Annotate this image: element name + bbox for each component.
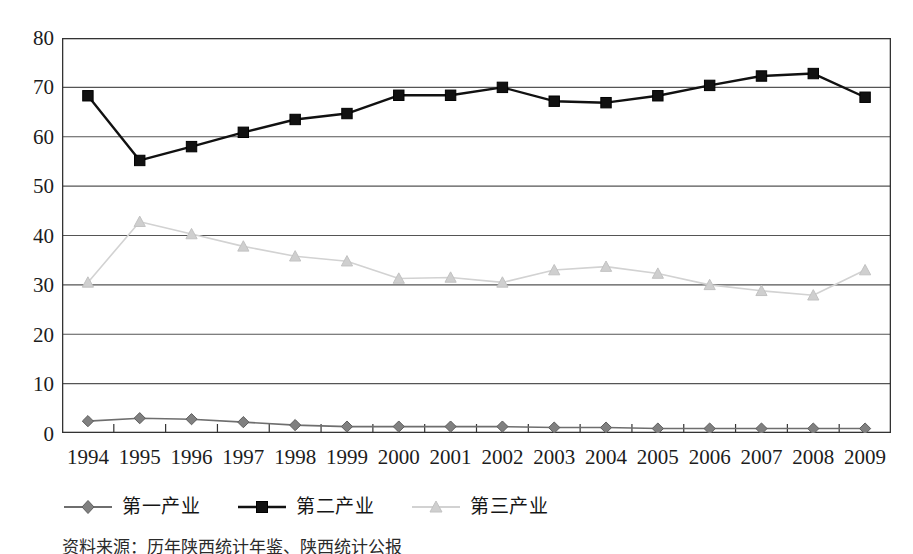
square-marker-icon (394, 90, 404, 100)
diamond-marker-icon (393, 421, 404, 432)
legend-label: 第二产业 (296, 497, 374, 517)
legend-item-tertiary-industry[interactable]: 第三产业 (410, 497, 548, 517)
x-tick-label: 1994 (62, 444, 114, 474)
square-marker-icon (860, 92, 870, 102)
square-marker-icon (83, 91, 93, 101)
diamond-marker-icon (62, 497, 114, 517)
series-line (88, 222, 865, 296)
x-tick-label: 1997 (217, 444, 269, 474)
square-marker-icon (135, 155, 145, 165)
diamond-marker-icon (238, 417, 249, 428)
diamond-marker-icon (186, 414, 197, 425)
y-tick-label: 30 (8, 275, 54, 296)
y-tick-label: 40 (8, 226, 54, 247)
y-axis: 80 70 60 50 40 30 20 10 0 (0, 0, 54, 554)
data-series (82, 216, 870, 300)
square-marker-icon (497, 82, 507, 92)
x-tick-label: 1999 (321, 444, 373, 474)
y-tick-label: 10 (8, 374, 54, 395)
diamond-marker-icon (600, 422, 611, 433)
legend-item-primary-industry[interactable]: 第一产业 (62, 497, 200, 517)
square-marker-icon (445, 90, 455, 100)
diamond-marker-icon (497, 421, 508, 432)
y-tick-label: 50 (8, 176, 54, 197)
diamond-marker-icon (290, 420, 301, 431)
x-tick-label: 2007 (736, 444, 788, 474)
square-marker-icon (704, 80, 714, 90)
gridlines (62, 87, 891, 383)
triangle-marker-icon (134, 216, 145, 226)
source-note: 资料来源：历年陕西统计年鉴、陕西统计公报 (62, 538, 402, 554)
square-marker-icon (808, 68, 818, 78)
x-tick-label: 2004 (580, 444, 632, 474)
y-tick-label: 0 (8, 424, 54, 445)
diamond-marker-icon (652, 423, 663, 433)
triangle-marker-icon (410, 497, 462, 517)
square-marker-icon (653, 91, 663, 101)
diamond-marker-icon (808, 423, 819, 433)
x-axis: 1994 1995 1996 1997 1998 1999 2000 2001 … (62, 444, 891, 474)
y-tick-label: 60 (8, 127, 54, 148)
legend-item-secondary-industry[interactable]: 第二产业 (236, 497, 374, 517)
x-tick-label: 2003 (528, 444, 580, 474)
diamond-marker-icon (82, 416, 93, 427)
y-tick-label: 80 (8, 28, 54, 49)
chart-legend: 第一产业 第二产业 第三产业 (62, 492, 548, 522)
legend-label: 第一产业 (122, 497, 200, 517)
plot-area (62, 38, 891, 433)
data-series-layer (82, 68, 870, 433)
square-marker-icon (601, 97, 611, 107)
y-tick-label: 70 (8, 77, 54, 98)
series-line (88, 418, 865, 428)
square-marker-icon (342, 108, 352, 118)
diamond-marker-icon (756, 423, 767, 433)
diamond-marker-icon (445, 421, 456, 432)
diamond-marker-icon (704, 423, 715, 433)
square-marker-icon (756, 71, 766, 81)
x-tick-label: 2009 (839, 444, 891, 474)
data-series (83, 68, 871, 165)
chart-plot-svg (62, 38, 891, 433)
x-tick-label: 1996 (166, 444, 218, 474)
square-marker-icon (236, 497, 288, 517)
x-tick-label: 2006 (684, 444, 736, 474)
x-tick-label: 2002 (477, 444, 529, 474)
square-marker-icon (238, 127, 248, 137)
x-tick-label: 1995 (114, 444, 166, 474)
diamond-marker-icon (341, 421, 352, 432)
x-tick-label: 2008 (787, 444, 839, 474)
diamond-marker-icon (859, 423, 870, 433)
square-marker-icon (290, 114, 300, 124)
x-tick-label: 2005 (632, 444, 684, 474)
triangle-marker-icon (859, 264, 870, 274)
square-marker-icon (549, 96, 559, 106)
series-line (88, 74, 865, 161)
x-tick-label: 2001 (425, 444, 477, 474)
square-marker-icon (186, 141, 196, 151)
legend-label: 第三产业 (470, 497, 548, 517)
x-tick-label: 1998 (269, 444, 321, 474)
diamond-marker-icon (134, 413, 145, 424)
y-tick-label: 20 (8, 325, 54, 346)
x-tick-label: 2000 (373, 444, 425, 474)
diamond-marker-icon (549, 422, 560, 433)
chart-figure: 80 70 60 50 40 30 20 10 0 1994 1995 1996… (0, 0, 913, 554)
